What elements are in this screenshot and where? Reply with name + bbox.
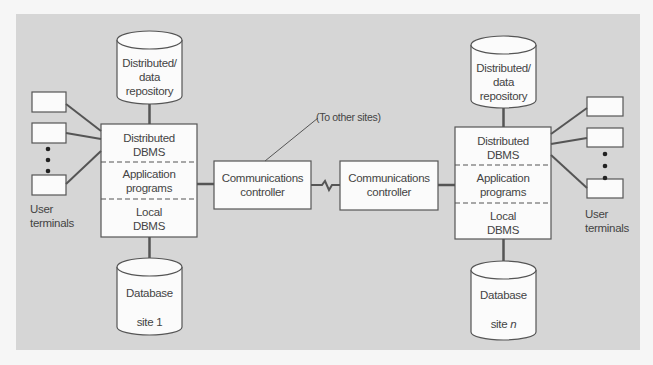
user-terminal <box>32 175 66 195</box>
communications-controller-label-site-n: Communications controller <box>340 171 438 199</box>
user-terminal <box>587 97 623 116</box>
user-terminal <box>587 128 623 147</box>
to-other-sites-annotation: (To other sites) <box>316 110 381 124</box>
local-dbms-label-site-1: Local DBMS <box>101 205 197 233</box>
distributed-dbms-label-site-1: Distributed DBMS <box>101 131 197 159</box>
database-label-site-1: Database site 1 <box>117 286 182 329</box>
application-programs-label-site-n: Application programs <box>455 171 551 199</box>
diagram-shapes <box>0 0 653 365</box>
repository-label-site-1: Distributed/ data repository <box>117 56 182 98</box>
user-terminal <box>587 179 623 198</box>
local-dbms-label-site-n: Local DBMS <box>455 209 551 237</box>
user-terminals-label-site-1: User terminals <box>30 202 74 230</box>
database-label-site-n: Database site n <box>471 288 536 331</box>
repository-label-site-n: Distributed/ data repository <box>471 61 536 103</box>
network-link <box>311 181 340 190</box>
user-terminal <box>32 92 66 112</box>
distributed-dbms-label-site-n: Distributed DBMS <box>455 134 551 162</box>
application-programs-label-site-1: Application programs <box>101 167 197 195</box>
communications-controller-label-site-1: Communications controller <box>214 171 311 199</box>
user-terminal <box>32 123 66 143</box>
user-terminals-label-site-n: User terminals <box>585 207 629 235</box>
